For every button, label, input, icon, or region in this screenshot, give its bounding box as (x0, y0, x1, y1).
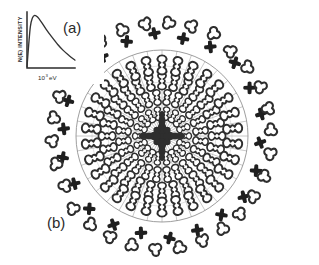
bowtie-cluster-glyph (162, 89, 171, 105)
trefoil-glyph (184, 20, 199, 34)
core-blob (159, 153, 165, 161)
core-blob (163, 139, 170, 145)
bowtie-cluster-glyph (219, 151, 240, 165)
trefoil-glyph (83, 216, 98, 231)
bowtie-cluster-glyph (192, 126, 208, 135)
bowtie-cluster-glyph (152, 89, 161, 105)
core-blob (163, 127, 170, 133)
core-blob (153, 139, 160, 145)
scientific-figure-canvas: N(E) INTENSITY 10 3 eV (a) (b) (0, 0, 319, 265)
bowtie-cluster-glyph (192, 136, 208, 145)
plus-cross-glyph (134, 226, 147, 239)
plus-cross-glyph (203, 40, 217, 54)
bowtie-cluster-glyph (115, 136, 131, 145)
central-core-cluster (139, 111, 185, 161)
bowtie-cluster-glyph (141, 56, 154, 77)
plus-cross-glyph (83, 202, 96, 216)
panel-label-a: (a) (63, 19, 81, 36)
bowtie-cluster-glyph (170, 56, 183, 77)
trefoil-glyph (137, 15, 154, 32)
bowtie-cluster-glyph (213, 92, 234, 109)
bowtie-cluster-glyph (183, 61, 199, 82)
trefoil-glyph (233, 208, 245, 221)
trefoil-glyph (214, 220, 230, 236)
x-axis-unit: eV (49, 74, 57, 81)
core-blob (139, 133, 147, 139)
trefoil-glyph (44, 133, 59, 148)
x-axis-label: 10 (38, 74, 45, 81)
bowtie-cluster-glyph (157, 197, 166, 216)
bowtie-cluster-glyph (81, 123, 101, 134)
y-axis-label: N(E) INTENSITY (17, 16, 23, 62)
trefoil-glyph (263, 145, 279, 161)
bowtie-cluster-glyph (213, 163, 234, 180)
bowtie-cluster-glyph (157, 55, 166, 74)
trefoil-glyph (241, 60, 255, 74)
trefoil-glyph (123, 237, 139, 253)
trefoil-glyph (265, 123, 277, 135)
figure-root: N(E) INTENSITY 10 3 eV (a) (b) (0, 0, 319, 265)
trefoil-glyph (221, 42, 238, 59)
trefoil-glyph (254, 79, 269, 94)
core-blob (159, 111, 165, 119)
bowtie-cluster-glyph (170, 195, 183, 216)
bowtie-cluster-glyph (84, 107, 105, 121)
plus-cross-glyph (214, 208, 228, 223)
bowtie-cluster-glyph (125, 61, 141, 82)
bowtie-cluster-glyph (81, 138, 101, 149)
bowtie-cluster-glyph (152, 166, 161, 182)
core-blob (153, 127, 160, 133)
bowtie-cluster-glyph (141, 195, 154, 216)
bowtie-cluster-glyph (98, 132, 115, 140)
panel-label-b: (b) (47, 214, 65, 231)
trefoil-glyph (67, 202, 80, 215)
inset-spectrum-plot: N(E) INTENSITY 10 3 eV (12, 6, 104, 84)
trefoil-glyph (173, 240, 188, 256)
bowtie-cluster-glyph (125, 190, 141, 211)
bowtie-cluster-glyph (208, 132, 225, 140)
trefoil-glyph (113, 21, 130, 38)
bowtie-cluster-glyph (90, 92, 111, 109)
bowtie-cluster-glyph (223, 123, 243, 134)
trefoil-glyph (47, 110, 61, 124)
core-blob (177, 133, 185, 139)
bowtie-cluster-glyph (219, 107, 240, 121)
bowtie-cluster-glyph (183, 190, 199, 211)
bowtie-cluster-glyph (84, 151, 105, 165)
bowtie-cluster-glyph (115, 126, 131, 135)
bowtie-cluster-glyph (162, 166, 171, 182)
bowtie-cluster-glyph (223, 138, 243, 149)
bowtie-cluster-glyph (90, 163, 111, 180)
trefoil-glyph (162, 16, 176, 30)
trefoil-glyph (149, 244, 162, 257)
plus-cross-glyph (176, 31, 191, 46)
trefoil-glyph (205, 25, 222, 42)
plus-cross-glyph (57, 122, 71, 136)
